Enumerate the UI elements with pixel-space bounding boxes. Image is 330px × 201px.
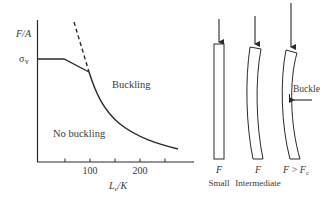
caption-intermediate: Intermediate (235, 178, 280, 188)
force-label-intermediate: F (254, 164, 262, 175)
buckled-column (282, 50, 300, 159)
column-intermediate: F Intermediate (235, 16, 280, 188)
euler-dashed-extension (74, 22, 89, 72)
x-tick-label-100: 100 (83, 165, 98, 176)
x-tick-label-200: 200 (133, 165, 148, 176)
straight-column (214, 44, 224, 159)
yield-curve (38, 59, 90, 72)
force-label-small: F (215, 164, 223, 175)
x-axis-label: Le/K (108, 180, 128, 193)
force-label-critical: F > Fc (282, 164, 309, 177)
slightly-bent-column (247, 47, 263, 159)
buckling-diagram: 100 200 Le/K F/A σY Buckling No buckling… (0, 0, 330, 201)
column-critical: Buckle F > Fc (282, 3, 320, 177)
yield-stress-label: σY (19, 53, 29, 65)
caption-small: Small (208, 178, 230, 188)
region-label-buckling: Buckling (112, 79, 151, 90)
stress-slenderness-graph: 100 200 Le/K F/A σY Buckling No buckling (15, 20, 194, 193)
y-axis-label: F/A (15, 28, 32, 39)
buckle-annotation: Buckle (293, 84, 320, 94)
column-small: F Small (208, 19, 230, 188)
region-label-no-buckling: No buckling (53, 128, 106, 139)
